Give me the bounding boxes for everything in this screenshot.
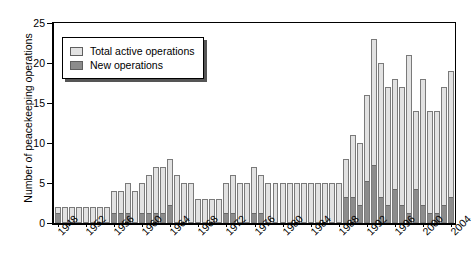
y-tick-mark <box>47 183 54 184</box>
legend-item-new: New operations <box>70 59 194 71</box>
bar-new-operations <box>252 213 256 222</box>
bar-new-operations <box>112 213 116 222</box>
bar-column <box>335 23 342 223</box>
bar-column <box>377 23 384 223</box>
y-tick-mark <box>47 223 54 224</box>
y-tick-label: 25 <box>33 17 45 29</box>
bar-column <box>342 23 349 223</box>
bar-new-operations <box>421 205 425 222</box>
bar-new-operations <box>365 181 369 222</box>
bar-column <box>420 23 427 223</box>
bar-column <box>258 23 265 223</box>
bar-total-active <box>336 183 342 223</box>
bar-total-active <box>223 183 229 223</box>
bar-column <box>406 23 413 223</box>
legend-label-new: New operations <box>90 59 163 71</box>
bar-column <box>349 23 356 223</box>
y-tick-mark <box>47 143 54 144</box>
bar-column <box>251 23 258 223</box>
bar-total-active <box>399 87 405 223</box>
bar-column <box>54 23 61 223</box>
bar-column <box>223 23 230 223</box>
bar-column <box>216 23 223 223</box>
bar-new-operations <box>393 189 397 222</box>
bar-total-active <box>371 39 377 223</box>
bar-total-active <box>251 167 257 223</box>
bar-column <box>448 23 455 223</box>
bar-column <box>441 23 448 223</box>
bar-total-active <box>413 111 419 223</box>
bar-new-operations <box>449 197 453 222</box>
bar-total-active <box>343 159 349 223</box>
chart-legend: Total active operations New operations <box>62 37 204 79</box>
bar-column <box>272 23 279 223</box>
bar-column <box>328 23 335 223</box>
bar-total-active <box>357 143 363 223</box>
bar-column <box>244 23 251 223</box>
bar-column <box>370 23 377 223</box>
bar-total-active <box>111 191 117 223</box>
y-tick-label: 10 <box>33 137 45 149</box>
bar-total-active <box>308 183 314 223</box>
legend-swatch-total-active-icon <box>70 47 83 56</box>
bar-column <box>300 23 307 223</box>
bar-total-active <box>427 111 433 223</box>
bar-new-operations <box>56 213 60 222</box>
bar-total-active <box>160 167 166 223</box>
bar-column <box>293 23 300 223</box>
bar-column <box>209 23 216 223</box>
y-axis-label: Number of peacekeeping operations <box>22 13 34 223</box>
bar-total-active <box>434 111 440 223</box>
bar-new-operations <box>140 213 144 222</box>
legend-label-total: Total active operations <box>90 45 194 57</box>
bar-total-active <box>244 183 250 223</box>
bar-column <box>363 23 370 223</box>
bar-total-active <box>364 95 370 223</box>
bar-new-operations <box>372 165 376 222</box>
bar-column <box>307 23 314 223</box>
bar-total-active <box>55 207 61 223</box>
bar-column <box>399 23 406 223</box>
y-tick-label: 15 <box>33 97 45 109</box>
y-tick-mark <box>47 23 54 24</box>
legend-item-total: Total active operations <box>70 45 194 57</box>
bar-total-active <box>420 79 426 223</box>
bar-total-active <box>83 207 89 223</box>
bar-total-active <box>350 135 356 223</box>
bar-total-active <box>392 79 398 223</box>
bar-column <box>230 23 237 223</box>
y-tick-label: 20 <box>33 57 45 69</box>
bar-column <box>384 23 391 223</box>
y-tick-mark <box>47 103 54 104</box>
bar-column <box>314 23 321 223</box>
bar-column <box>279 23 286 223</box>
bar-column <box>286 23 293 223</box>
bar-new-operations <box>414 189 418 222</box>
bar-total-active <box>280 183 286 223</box>
bar-new-operations <box>224 213 228 222</box>
bar-new-operations <box>168 205 172 222</box>
y-tick-label: 0 <box>39 217 45 229</box>
bar-total-active <box>195 199 201 223</box>
bar-column <box>356 23 363 223</box>
bar-total-active <box>167 159 173 223</box>
bar-column <box>237 23 244 223</box>
bar-total-active <box>385 87 391 223</box>
bar-column <box>265 23 272 223</box>
y-tick-label: 5 <box>39 177 45 189</box>
bar-total-active <box>441 87 447 223</box>
bar-total-active <box>378 63 384 223</box>
bar-total-active <box>448 71 454 223</box>
bar-column <box>413 23 420 223</box>
bar-total-active <box>406 55 412 223</box>
bar-column <box>392 23 399 223</box>
bar-column <box>321 23 328 223</box>
y-tick-mark <box>47 63 54 64</box>
bar-total-active <box>139 183 145 223</box>
legend-swatch-new-operations-icon <box>70 61 83 70</box>
bar-column <box>427 23 434 223</box>
bar-column <box>434 23 441 223</box>
